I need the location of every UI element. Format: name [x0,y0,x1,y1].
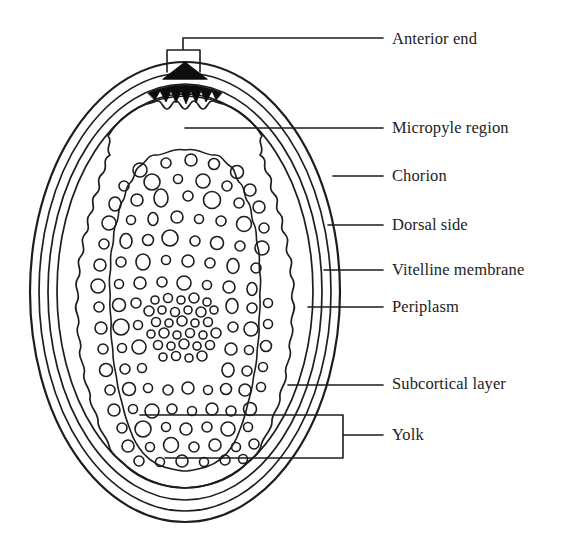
label-subcortical-layer: Subcortical layer [392,376,506,393]
chorion-inner-outline [39,73,331,511]
chorion-outer-outline [30,62,340,522]
diagram-canvas: Anterior end Micropyle region Chorion Do… [0,0,585,554]
leader-anterior-end [167,38,383,72]
label-periplasm: Periplasm [392,299,459,316]
label-dorsal-side: Dorsal side [392,217,468,234]
label-chorion: Chorion [392,168,447,185]
yolk-granules [91,154,273,467]
periplasm-outline [57,94,313,488]
leader-yolk [140,415,383,458]
subcortical-layer-outline [76,96,295,488]
label-yolk: Yolk [392,427,424,444]
label-anterior-end: Anterior end [392,31,477,48]
vitelline-membrane-outline [48,84,322,500]
label-vitelline-membrane: Vitelline membrane [392,262,524,279]
label-micropyle-region: Micropyle region [392,120,509,137]
